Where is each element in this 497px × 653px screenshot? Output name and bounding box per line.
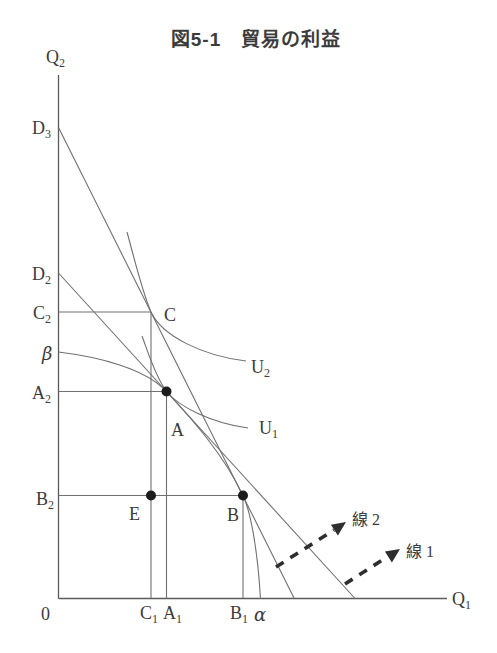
arrowhead-line1-icon — [385, 549, 400, 563]
y-label-d3: D3 — [32, 118, 51, 141]
ppf-curve — [59, 352, 261, 599]
curve-label-u2: U2 — [251, 357, 270, 380]
curve-label-u1: U1 — [259, 418, 278, 441]
point-label-a: A — [171, 420, 184, 440]
y-axis-label: Q2 — [46, 47, 65, 70]
point-label-b: B — [227, 505, 239, 525]
point-label-e: E — [129, 504, 140, 524]
arrow-label-line1: 線 1 — [406, 543, 434, 560]
point-dot-e — [146, 491, 156, 501]
arrow-shaft-line1 — [345, 557, 387, 584]
y-label-d2: D2 — [32, 264, 51, 287]
x-label-b1: B1 — [230, 603, 248, 626]
point-dot-b — [238, 491, 248, 501]
y-label-c2: C2 — [33, 303, 51, 326]
x-axis-label: Q1 — [452, 589, 471, 612]
arrow-shaft-line2 — [276, 530, 334, 567]
indifference-curve-u2 — [127, 232, 246, 361]
figure-page: 図5-1 貿易の利益 Q2 Q1 0 D3 D2 — [0, 0, 497, 653]
x-label-a1: A1 — [163, 603, 182, 626]
y-label-b2: B2 — [36, 489, 54, 512]
figure-title: 図5-1 貿易の利益 — [171, 28, 341, 50]
x-label-c1: C1 — [140, 603, 158, 626]
point-dot-a — [162, 387, 172, 397]
trade-gains-diagram: 図5-1 貿易の利益 Q2 Q1 0 D3 D2 — [0, 0, 497, 653]
y-label-a2: A2 — [32, 383, 51, 406]
origin-label: 0 — [41, 604, 50, 624]
point-label-c: C — [164, 305, 176, 325]
arrow-label-line2: 線 2 — [352, 511, 380, 528]
y-label-beta: β — [41, 343, 52, 364]
x-label-alpha: α — [254, 604, 266, 625]
domestic-price-line-d2 — [59, 273, 356, 599]
